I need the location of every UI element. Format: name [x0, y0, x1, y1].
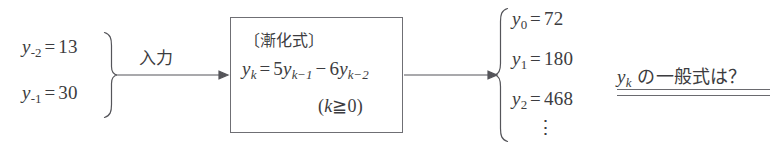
eq-lhs-subscript: k [251, 67, 257, 82]
init-2-equals: = [44, 82, 55, 103]
initial-condition-2: y-1=30 [22, 82, 78, 107]
eq-term1-var: y [283, 58, 292, 79]
init-1-subscript: -2 [31, 45, 42, 60]
process-box-title: 〔漸化式〕 [244, 27, 324, 51]
input-arrow-icon [118, 71, 228, 79]
out-1-var: y [512, 48, 521, 69]
question-text: ykの一般式は？ [617, 62, 747, 91]
condition-close-paren: ) [357, 96, 363, 116]
question-var: y [617, 66, 626, 87]
output-term-1: y1=180 [512, 48, 573, 73]
out-0-var: y [512, 8, 521, 29]
init-1-var: y [22, 36, 31, 57]
out-0-equals: = [530, 8, 541, 29]
out-0-subscript: 0 [521, 17, 527, 32]
init-2-value: 30 [58, 82, 77, 103]
eq-term2-var: y [339, 58, 348, 79]
recurrence-condition: (k≧0) [318, 95, 363, 117]
condition-value: 0 [348, 96, 357, 116]
init-1-equals: = [44, 36, 55, 57]
input-brace-icon [105, 33, 118, 118]
out-1-equals: = [530, 48, 541, 69]
out-1-value: 180 [544, 48, 573, 69]
out-2-equals: = [530, 88, 541, 109]
out-2-value: 468 [544, 88, 573, 109]
out-2-subscript: 2 [521, 97, 527, 112]
eq-lhs-var: y [242, 58, 251, 79]
init-2-subscript: -1 [31, 91, 42, 106]
initial-condition-1: y-2=13 [22, 36, 78, 61]
recurrence-equation: yk=5yk−1−6yk−2 [242, 58, 369, 83]
recurrence-flow-diagram: y-2=13 y-1=30 入力 〔漸化式〕 yk=5yk−1−6yk−2 (k… [0, 0, 778, 150]
out-0-value: 72 [544, 8, 563, 29]
condition-relation: ≧ [332, 96, 347, 116]
question-var-subscript: k [626, 75, 632, 90]
out-2-var: y [512, 88, 521, 109]
eq-equals: = [259, 58, 270, 79]
eq-operator: − [316, 58, 327, 79]
eq-term1-coef: 5 [273, 58, 283, 79]
eq-term2-subscript: k−2 [348, 67, 369, 82]
init-2-var: y [22, 82, 31, 103]
output-brace-icon [495, 9, 508, 142]
init-1-value: 13 [58, 36, 77, 57]
output-term-0: y0=72 [512, 8, 563, 33]
output-arrow-icon [404, 71, 497, 79]
input-arrow-label: 入力 [139, 44, 173, 69]
question-label: の一般式は？ [637, 66, 746, 87]
output-continuation-dots: ⋮ [536, 118, 557, 137]
output-term-2: y2=468 [512, 88, 573, 113]
eq-term2-coef: 6 [329, 58, 339, 79]
eq-term1-subscript: k−1 [292, 67, 313, 82]
out-1-subscript: 1 [521, 57, 527, 72]
